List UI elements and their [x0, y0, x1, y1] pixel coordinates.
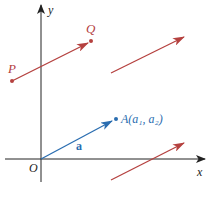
point-q-label: Q	[86, 21, 96, 36]
x-axis-label: x	[196, 165, 203, 179]
origin-label: O	[29, 161, 38, 175]
vector-pq	[12, 43, 88, 81]
y-axis-label: y	[47, 3, 54, 17]
equivalent-vector-upper	[111, 37, 184, 73]
diagram-svg: y x O P Q A(a₁, a₂) a	[0, 0, 215, 198]
equivalent-vector-lower	[111, 143, 184, 180]
point-p-label: P	[7, 61, 16, 76]
vector-diagram: y x O P Q A(a₁, a₂) a	[0, 0, 215, 198]
vector-a-label: a	[76, 139, 82, 153]
point-a-label: A(a₁, a₂)	[120, 112, 163, 126]
point-q	[89, 39, 93, 43]
point-a	[114, 117, 118, 121]
point-p	[10, 79, 14, 83]
